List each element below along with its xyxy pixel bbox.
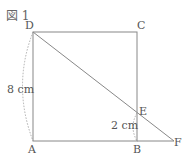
label-a: A	[28, 144, 36, 155]
label-e: E	[139, 106, 147, 117]
label-c: C	[137, 20, 145, 31]
label-d: D	[25, 20, 34, 31]
measure-2cm: 2 cm	[111, 120, 138, 131]
measure-8cm: 8 cm	[7, 84, 34, 95]
label-f: F	[174, 137, 182, 148]
segment-df	[33, 32, 174, 141]
label-b: B	[133, 144, 141, 155]
